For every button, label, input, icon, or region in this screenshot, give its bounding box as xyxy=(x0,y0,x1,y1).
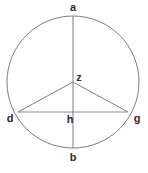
geometry-canvas: a z d h g b xyxy=(0,0,148,173)
vertex-label-h: h xyxy=(67,113,74,125)
vertex-label-z: z xyxy=(76,71,82,83)
geometry-figure: a z d h g b xyxy=(0,0,148,173)
vertex-label-a: a xyxy=(70,1,77,13)
vertex-label-g: g xyxy=(134,112,141,124)
vertex-label-b: b xyxy=(70,151,77,163)
vertex-label-d: d xyxy=(7,112,14,124)
figure-background xyxy=(0,0,148,173)
